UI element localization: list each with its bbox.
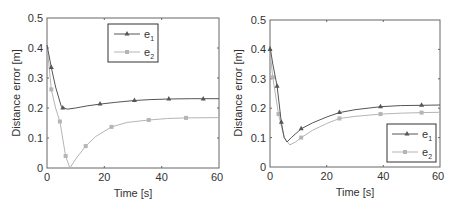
y-tick-label: 0.1	[28, 132, 43, 144]
square-marker-icon	[49, 87, 53, 91]
y-ticks-right: 0 0.1 0.2 0.3 0.4 0.5	[251, 14, 266, 173]
square-marker-icon	[64, 154, 68, 158]
y-axis-label: Distance error [m]	[232, 49, 244, 136]
square-marker-icon	[379, 112, 383, 116]
y-tick-label: 0.4	[28, 42, 43, 54]
triangle-marker-icon	[132, 98, 137, 103]
plot-series-left	[47, 45, 219, 168]
x-axis-label: Time [s]	[114, 187, 153, 199]
square-marker-icon	[299, 136, 303, 140]
square-marker-icon	[58, 120, 62, 124]
triangle-marker-icon	[166, 96, 171, 101]
y-tick-label: 0	[260, 161, 266, 173]
square-marker-icon	[84, 144, 88, 148]
x-tick-label: 20	[98, 171, 110, 183]
x-tick-label: 20	[321, 170, 333, 182]
x-axis-label: Time [s]	[336, 186, 375, 198]
y-ticks-left: 0 0.1 0.2 0.3 0.4 0.5	[28, 12, 43, 174]
y-axis-label: Distance error [m]	[10, 49, 22, 136]
x-ticks-left: 0 20 40 60	[44, 171, 223, 183]
y-tick-label: 0.1	[251, 132, 266, 144]
square-marker-icon	[337, 116, 341, 120]
series-line-e2	[47, 45, 219, 168]
x-tick-label: 0	[267, 170, 273, 182]
square-marker-icon	[184, 116, 188, 120]
triangle-marker-icon	[98, 101, 103, 106]
x-ticks-right: 0 20 40 60	[267, 170, 444, 182]
triangle-marker-icon	[378, 104, 383, 109]
y-tick-label: 0.5	[28, 12, 43, 24]
y-tick-label: 0	[37, 162, 43, 174]
square-marker-icon	[403, 150, 407, 154]
triangle-marker-icon	[268, 46, 273, 51]
square-marker-icon	[110, 125, 114, 129]
y-tick-label: 0.2	[251, 102, 266, 114]
legend-right: e1 e2	[387, 124, 436, 162]
y-tick-label: 0.3	[28, 72, 43, 84]
x-tick-label: 0	[44, 171, 50, 183]
square-marker-icon	[420, 111, 424, 115]
y-tick-label: 0.5	[251, 14, 266, 26]
x-tick-label: 60	[211, 171, 223, 183]
triangle-marker-icon	[275, 83, 280, 88]
figure: 0 0.1 0.2 0.3 0.4 0.5 0 20 40 60 Time [s…	[0, 0, 457, 209]
x-tick-label: 40	[377, 170, 389, 182]
x-tick-label: 40	[156, 171, 168, 183]
x-tick-label: 60	[432, 170, 444, 182]
legend-left: e1 e2	[108, 24, 158, 62]
y-tick-label: 0.3	[251, 73, 266, 85]
chart-left: 0 0.1 0.2 0.3 0.4 0.5 0 20 40 60 Time [s…	[10, 12, 223, 199]
y-tick-label: 0.4	[251, 43, 266, 55]
triangle-marker-icon	[419, 102, 424, 107]
square-marker-icon	[147, 118, 151, 122]
square-marker-icon	[125, 50, 129, 54]
square-marker-icon	[271, 75, 275, 79]
y-tick-label: 0.2	[28, 102, 43, 114]
chart-right: 0 0.1 0.2 0.3 0.4 0.5 0 20 40 60 Time [s…	[232, 14, 444, 198]
